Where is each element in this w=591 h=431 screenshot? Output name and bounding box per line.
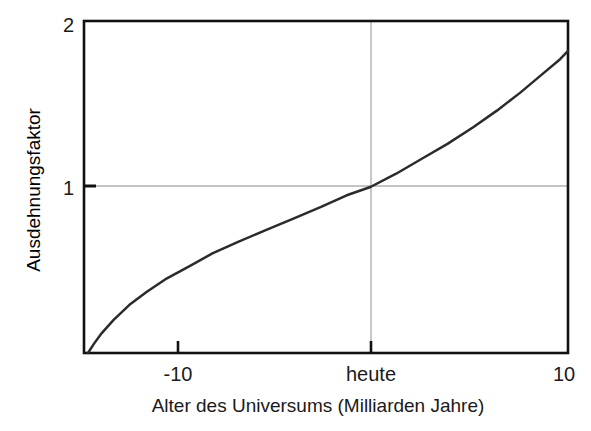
y-axis-title: Ausdehnungsfaktor (23, 107, 44, 271)
x-tick-label-heute: heute (346, 363, 396, 385)
y-tick-label-2: 2 (63, 14, 74, 36)
chart-figure: 2 1 -10 heute 10 Alter des Universums (M… (0, 0, 591, 431)
x-tick-label-10: 10 (553, 363, 575, 385)
x-tick-label-minus10: -10 (164, 363, 193, 385)
x-axis-title: Alter des Universums (Milliarden Jahre) (152, 395, 485, 416)
y-tick-label-1: 1 (63, 177, 74, 199)
plot-background (84, 21, 568, 353)
screenshot-root: 2 1 -10 heute 10 Alter des Universums (M… (0, 0, 591, 431)
expansion-factor-chart: 2 1 -10 heute 10 Alter des Universums (M… (0, 0, 591, 431)
